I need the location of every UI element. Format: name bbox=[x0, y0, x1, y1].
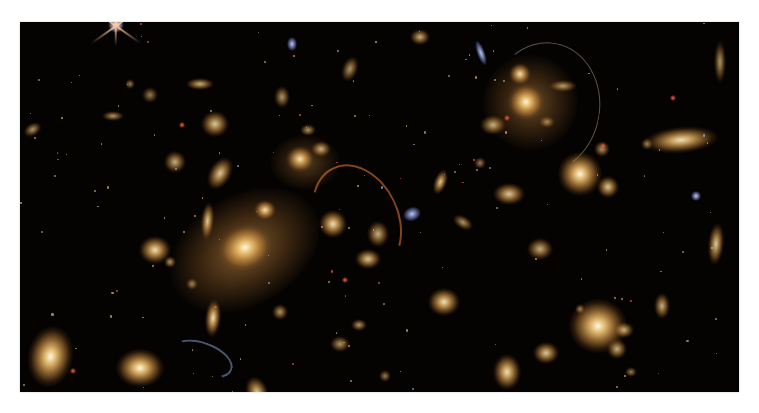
elliptical-galaxy bbox=[597, 176, 619, 198]
faint-star bbox=[606, 249, 608, 251]
faint-star bbox=[644, 175, 646, 177]
faint-star bbox=[400, 178, 401, 179]
faint-star bbox=[258, 32, 259, 33]
faint-star bbox=[240, 358, 242, 360]
lensing-arc bbox=[166, 332, 238, 386]
elliptical-galaxy bbox=[23, 322, 78, 390]
faint-star bbox=[373, 229, 374, 230]
elliptical-galaxy bbox=[428, 288, 460, 317]
faint-star bbox=[495, 344, 496, 345]
faint-star bbox=[476, 169, 478, 171]
faint-star bbox=[142, 317, 144, 319]
elliptical-galaxy bbox=[241, 373, 273, 392]
elliptical-galaxy bbox=[116, 349, 164, 387]
faint-star bbox=[711, 247, 713, 249]
faint-star bbox=[660, 271, 662, 273]
elliptical-galaxy bbox=[493, 354, 522, 389]
faint-star bbox=[94, 190, 96, 192]
galaxy-cluster-photo bbox=[20, 22, 739, 392]
faint-star bbox=[707, 142, 709, 144]
faint-star bbox=[321, 226, 323, 228]
faint-star bbox=[268, 282, 270, 284]
faint-star bbox=[710, 212, 711, 213]
faint-star bbox=[279, 115, 280, 116]
faint-star bbox=[597, 174, 598, 175]
faint-star bbox=[383, 303, 385, 305]
faint-star bbox=[703, 134, 705, 136]
elliptical-galaxy bbox=[330, 336, 349, 352]
elliptical-galaxy bbox=[272, 304, 288, 320]
faint-star bbox=[406, 125, 408, 127]
elliptical-galaxy bbox=[286, 146, 315, 172]
faint-star bbox=[101, 143, 102, 144]
faint-star bbox=[147, 41, 149, 43]
elliptical-galaxy bbox=[351, 319, 367, 332]
elliptical-galaxy bbox=[509, 63, 531, 85]
elliptical-galaxy bbox=[212, 217, 278, 278]
faint-star bbox=[38, 79, 40, 81]
faint-star bbox=[245, 324, 247, 326]
faint-star bbox=[154, 134, 155, 135]
blue-galaxy bbox=[401, 204, 423, 223]
faint-star bbox=[420, 232, 421, 233]
faint-star bbox=[419, 31, 420, 32]
faint-star bbox=[273, 152, 274, 153]
faint-star bbox=[140, 23, 142, 25]
red-galaxy-dot bbox=[70, 368, 76, 374]
faint-star bbox=[110, 315, 112, 317]
faint-star bbox=[345, 295, 347, 297]
faint-star bbox=[614, 297, 616, 299]
faint-star bbox=[364, 175, 365, 176]
elliptical-galaxy bbox=[706, 223, 726, 266]
faint-star bbox=[659, 149, 660, 150]
faint-star bbox=[442, 267, 444, 269]
faint-star bbox=[378, 282, 380, 284]
elliptical-galaxy bbox=[274, 86, 290, 108]
elliptical-galaxy bbox=[625, 367, 638, 377]
faint-star bbox=[686, 340, 688, 342]
red-galaxy-dot bbox=[600, 143, 606, 149]
elliptical-galaxy bbox=[714, 41, 727, 83]
elliptical-galaxy bbox=[21, 119, 44, 140]
faint-star bbox=[183, 231, 185, 233]
faint-star bbox=[71, 82, 72, 83]
faint-star bbox=[663, 232, 664, 233]
faint-star bbox=[20, 202, 22, 204]
elliptical-galaxy bbox=[641, 138, 654, 151]
faint-star bbox=[57, 159, 59, 161]
faint-star bbox=[505, 131, 507, 133]
faint-star bbox=[369, 115, 371, 117]
faint-star bbox=[256, 211, 257, 212]
faint-star bbox=[547, 204, 548, 205]
faint-star bbox=[354, 115, 356, 117]
faint-star bbox=[293, 55, 295, 57]
elliptical-galaxy bbox=[164, 151, 186, 173]
faint-star bbox=[621, 298, 623, 300]
faint-star bbox=[30, 113, 31, 114]
faint-star bbox=[79, 75, 80, 76]
faint-star bbox=[491, 25, 492, 26]
faint-star bbox=[353, 80, 355, 82]
faint-star bbox=[152, 265, 153, 266]
lensing-arc bbox=[477, 33, 610, 182]
faint-star bbox=[57, 152, 59, 154]
faint-star bbox=[268, 255, 269, 256]
elliptical-galaxy bbox=[575, 304, 585, 314]
faint-star bbox=[616, 386, 618, 388]
faint-star bbox=[232, 391, 233, 392]
elliptical-galaxy bbox=[558, 152, 603, 197]
faint-star bbox=[459, 164, 460, 165]
faint-star bbox=[454, 171, 456, 173]
faint-star bbox=[496, 207, 498, 209]
faint-star bbox=[413, 144, 414, 145]
faint-star bbox=[400, 371, 401, 372]
faint-star bbox=[34, 137, 36, 139]
elliptical-galaxy bbox=[201, 111, 230, 137]
galaxy-halo bbox=[270, 135, 340, 190]
faint-star bbox=[588, 73, 589, 74]
faint-star bbox=[715, 318, 717, 320]
elliptical-galaxy bbox=[430, 168, 451, 196]
faint-star bbox=[503, 80, 505, 82]
faint-star bbox=[527, 27, 528, 28]
diffraction-spike bbox=[115, 22, 117, 45]
